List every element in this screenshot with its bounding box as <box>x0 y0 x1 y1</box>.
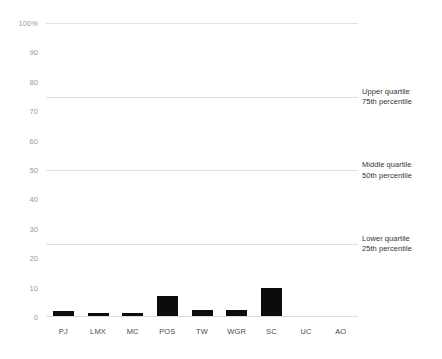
percentile-reference-line <box>46 170 358 171</box>
x-axis: PJLMXMCPOSTWWGRSCUCAO <box>46 320 358 338</box>
y-axis-tick-label: 90 <box>29 48 38 57</box>
y-axis-tick-label: 10 <box>29 283 38 292</box>
y-axis-tick-label: 50 <box>29 166 38 175</box>
x-axis-slot: SC <box>254 320 289 338</box>
x-axis-label-ao: AO <box>335 327 346 336</box>
x-axis-label-uc: UC <box>300 327 311 336</box>
x-axis-slot: PJ <box>46 320 81 338</box>
percentile-annotation: Upper quartile75th percentile <box>362 86 442 107</box>
percentile-reference-line <box>46 97 358 98</box>
x-axis-slot: LMX <box>81 320 116 338</box>
percentile-annotation-subtitle: 75th percentile <box>362 97 442 108</box>
x-axis-slot: POS <box>150 320 185 338</box>
percentile-annotation-subtitle: 50th percentile <box>362 170 442 181</box>
y-axis-tick-label: 0 <box>34 313 38 322</box>
plot-area <box>46 23 358 317</box>
x-axis-slot: TW <box>185 320 220 338</box>
bar-chart: 100%9080706050403020100 PJLMXMCPOSTWWGRS… <box>0 0 442 359</box>
x-axis-label-wgr: WGR <box>227 327 246 336</box>
x-axis-label-lmx: LMX <box>90 327 106 336</box>
bar-pos[interactable] <box>157 296 178 317</box>
percentile-annotation-title: Upper quartile <box>362 86 442 97</box>
y-axis-tick-label: 100% <box>18 19 38 28</box>
percentile-reference-line <box>46 244 358 245</box>
y-axis-tick-label: 20 <box>29 254 38 263</box>
y-axis: 100%9080706050403020100 <box>0 0 44 359</box>
y-axis-tick-label: 60 <box>29 136 38 145</box>
x-axis-slot: WGR <box>219 320 254 338</box>
percentile-annotation-title: Lower quartile <box>362 233 442 244</box>
percentile-annotation: Lower quartile25th percentile <box>362 233 442 254</box>
percentile-annotation: Middle quartile50th percentile <box>362 160 442 181</box>
x-axis-baseline <box>46 316 358 317</box>
y-axis-tick-label: 40 <box>29 195 38 204</box>
y-axis-tick-label: 70 <box>29 107 38 116</box>
y-axis-tick-label: 30 <box>29 224 38 233</box>
x-axis-label-sc: SC <box>266 327 277 336</box>
x-axis-label-tw: TW <box>196 327 208 336</box>
percentile-annotation-title: Middle quartile <box>362 160 442 171</box>
x-axis-slot: MC <box>115 320 150 338</box>
x-axis-label-pos: POS <box>159 327 175 336</box>
y-axis-tick-label: 80 <box>29 77 38 86</box>
x-axis-label-mc: MC <box>127 327 139 336</box>
x-axis-slot: UC <box>289 320 324 338</box>
percentile-annotation-subtitle: 25th percentile <box>362 244 442 255</box>
x-axis-slot: AO <box>323 320 358 338</box>
bar-sc[interactable] <box>261 288 282 317</box>
x-axis-label-pj: PJ <box>59 327 68 336</box>
